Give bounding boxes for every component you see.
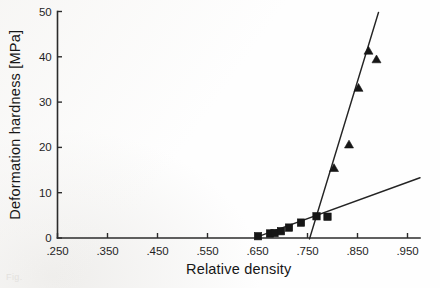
y-tick-label: 20 — [39, 141, 52, 153]
square-data-point — [285, 224, 292, 231]
square-data-series — [254, 213, 331, 240]
y-tick-label: 40 — [39, 51, 52, 63]
x-tick-label: .650 — [247, 245, 269, 257]
y-axis-title: Deformation hardness [MPa] — [7, 30, 23, 220]
x-axis-title: Relative density — [186, 261, 292, 277]
x-axis-tick-labels: .250.350.450.550.650.750.850.950 — [47, 245, 419, 257]
y-tick-label: 30 — [39, 96, 52, 108]
square-data-point — [313, 213, 320, 220]
square-data-point — [254, 232, 261, 239]
square-data-point — [324, 213, 331, 220]
x-tick-label: .450 — [147, 245, 169, 257]
y-tick-label: 0 — [45, 232, 51, 244]
x-tick-label: .750 — [297, 245, 319, 257]
fit-lines-group — [258, 12, 420, 239]
x-tick-label: .550 — [197, 245, 219, 257]
square-data-point — [277, 228, 284, 235]
axes-group — [58, 12, 421, 239]
y-tick-label: 10 — [39, 187, 52, 199]
triangle-data-point — [345, 140, 354, 148]
y-tick-label: 50 — [39, 6, 52, 18]
figure-container: 01020304050 .250.350.450.550.650.750.850… — [0, 0, 440, 288]
x-tick-label: .850 — [347, 245, 369, 257]
triangle-data-point — [364, 46, 373, 54]
x-tick-label: .950 — [397, 245, 419, 257]
x-tick-label: .350 — [97, 245, 119, 257]
triangle-data-point — [372, 55, 381, 63]
square-data-point — [297, 219, 304, 226]
caption-fragment: Fig. — [6, 272, 23, 282]
y-axis-tick-labels: 01020304050 — [39, 6, 52, 245]
deformation-hardness-scatter-chart: 01020304050 .250.350.450.550.650.750.850… — [0, 0, 440, 288]
x-tick-label: .250 — [47, 245, 69, 257]
triangle-data-series — [330, 46, 382, 171]
